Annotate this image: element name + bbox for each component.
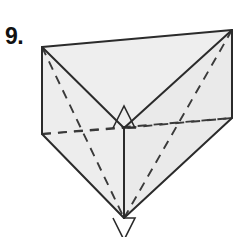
bottom-front-right-angle — [113, 218, 135, 237]
triangular-prism-figure — [0, 0, 249, 237]
prism-faces — [42, 30, 232, 218]
figure-container: 9. — [0, 0, 249, 237]
